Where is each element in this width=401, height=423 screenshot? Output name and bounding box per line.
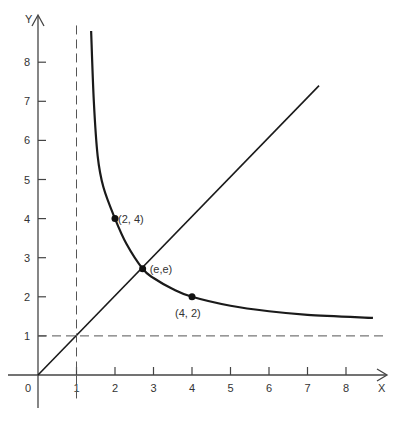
x-tick-label: 3 [151,382,157,394]
identity-line [38,86,319,375]
data-point-marker [139,265,146,272]
y-tick-label: 5 [24,174,30,186]
point-label: (4, 2) [175,307,201,319]
y-axis-label: Y [25,13,33,25]
y-tick-label: 4 [24,213,30,225]
y-tick-label: 8 [24,56,30,68]
tick-labels: 1234567812345678 [24,56,349,394]
x-tick-label: 2 [112,382,118,394]
x-tick-label: 7 [305,382,311,394]
annotation-points: (2, 4)(e,e)(4, 2) [112,213,201,319]
chart-canvas: 1234567812345678 X Y 0 (2, 4)(e,e)(4, 2) [0,0,401,423]
point-label: (2, 4) [118,213,144,225]
x-axis-label: X [378,382,386,394]
y-tick-label: 6 [24,134,30,146]
series-layer [38,23,385,398]
x-tick-label: 5 [228,382,234,394]
x-tick-label: 8 [343,382,349,394]
y-tick-label: 7 [24,95,30,107]
point-label: (e,e) [150,263,173,275]
origin-label: 0 [25,382,31,394]
y-tick-label: 1 [24,330,30,342]
y-tick-label: 2 [24,291,30,303]
x-tick-label: 6 [266,382,272,394]
data-point-marker [189,293,196,300]
y-tick-label: 3 [24,252,30,264]
x-tick-label: 4 [189,382,195,394]
